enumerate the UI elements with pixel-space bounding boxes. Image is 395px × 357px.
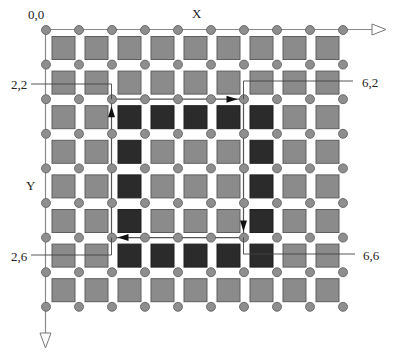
grid-node	[42, 60, 51, 69]
grid-cell	[52, 106, 75, 129]
grid-cell	[52, 175, 75, 198]
grid-node	[339, 268, 348, 277]
grid-node	[339, 164, 348, 173]
grid-node	[207, 268, 216, 277]
grid-node	[207, 129, 216, 138]
grid-node	[273, 60, 282, 69]
arrow-left-icon	[118, 234, 129, 241]
highlighted-cell	[118, 175, 141, 198]
highlighted-cell	[118, 244, 141, 267]
grid-cell	[151, 279, 174, 302]
grid-node	[339, 302, 348, 311]
highlighted-cell	[217, 244, 240, 267]
grid-cell	[316, 71, 339, 94]
grid-node	[141, 268, 150, 277]
highlighted-cell	[217, 106, 240, 129]
grid-node	[174, 164, 183, 173]
x-axis-arrow-icon	[372, 24, 386, 35]
grid-node	[306, 164, 315, 173]
grid-node	[174, 233, 183, 242]
grid-node	[108, 302, 117, 311]
grid-node	[306, 26, 315, 35]
grid-node	[174, 302, 183, 311]
grid-node	[240, 233, 249, 242]
grid-node	[108, 95, 117, 104]
grid-cell	[85, 106, 108, 129]
grid-node	[108, 199, 117, 208]
grid-node	[240, 129, 249, 138]
grid-cell	[316, 175, 339, 198]
grid-cell	[316, 210, 339, 233]
grid-cell	[52, 210, 75, 233]
grid-cell	[52, 244, 75, 267]
highlighted-cell	[151, 244, 174, 267]
grid-cell	[217, 210, 240, 233]
grid-cell	[85, 279, 108, 302]
corner-label-2-2: 2,2	[11, 77, 27, 92]
grid-cell	[283, 140, 306, 163]
grid-node	[306, 199, 315, 208]
grid-node	[207, 164, 216, 173]
grid-cell	[184, 210, 207, 233]
grid-node	[273, 302, 282, 311]
highlighted-cell	[151, 106, 174, 129]
grid-node	[42, 129, 51, 138]
grid-node	[141, 26, 150, 35]
grid-cell	[52, 37, 75, 60]
grid-node	[108, 26, 117, 35]
highlighted-cell	[118, 210, 141, 233]
grid-node	[207, 302, 216, 311]
grid-cell	[250, 37, 273, 60]
grid-node	[207, 233, 216, 242]
grid-cell	[151, 175, 174, 198]
corner-label-2-6: 2,6	[11, 249, 28, 264]
grid-dots	[42, 26, 348, 312]
arrow-up-icon	[108, 106, 115, 117]
grid-node	[108, 60, 117, 69]
grid-node	[141, 233, 150, 242]
grid-cell	[283, 210, 306, 233]
corner-label-6-2: 6,2	[362, 75, 378, 90]
grid-node	[207, 26, 216, 35]
grid-node	[42, 164, 51, 173]
grid-node	[141, 302, 150, 311]
grid-node	[75, 302, 84, 311]
grid-node	[207, 199, 216, 208]
highlighted-cell	[118, 106, 141, 129]
grid-node	[141, 129, 150, 138]
grid-cell	[151, 37, 174, 60]
grid-cell	[283, 71, 306, 94]
grid-node	[174, 129, 183, 138]
corner-label-6-6: 6,6	[363, 248, 380, 263]
grid-node	[174, 268, 183, 277]
grid-cell	[85, 175, 108, 198]
highlighted-cell	[118, 140, 141, 163]
grid-node	[339, 26, 348, 35]
grid-node	[75, 26, 84, 35]
grid-cell	[151, 140, 174, 163]
grid-node	[273, 164, 282, 173]
arrow-down-icon	[240, 221, 247, 232]
grid-node	[339, 233, 348, 242]
grid-node	[306, 129, 315, 138]
grid-node	[306, 302, 315, 311]
grid-cell	[151, 71, 174, 94]
grid-cell	[85, 140, 108, 163]
grid-cell	[118, 279, 141, 302]
grid-node	[141, 60, 150, 69]
y-axis-arrow-icon	[40, 333, 51, 348]
grid-cell	[316, 37, 339, 60]
grid-node	[75, 268, 84, 277]
grid-node	[75, 60, 84, 69]
highlighted-cell	[250, 106, 273, 129]
grid-cell	[283, 244, 306, 267]
grid-node	[42, 26, 51, 35]
grid-node	[42, 302, 51, 311]
grid-node	[42, 233, 51, 242]
grid-squares	[52, 37, 339, 302]
grid-cell	[118, 37, 141, 60]
grid-cell	[283, 175, 306, 198]
grid-node	[174, 95, 183, 104]
grid-node	[339, 95, 348, 104]
grid-node	[141, 199, 150, 208]
